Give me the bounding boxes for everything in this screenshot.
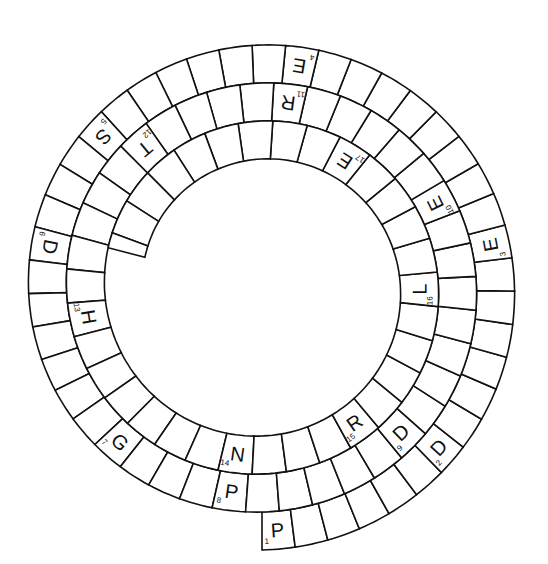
cell-letter: P [270,519,285,542]
clue-number: 16 [425,296,434,306]
spiral-cell[interactable] [438,276,477,310]
spiral-cell[interactable] [66,269,105,303]
cell-letter: L [409,283,431,294]
spiral-cell[interactable] [240,83,274,123]
spiral-cell[interactable] [474,258,514,291]
spiral-cell[interactable] [475,291,514,325]
spiral-cell[interactable] [252,434,286,474]
spiral-cell[interactable] [246,473,280,512]
spiral-cells: P1D2E3E4S5D6G7P8D9E10R11T12H13N14R15L16E… [28,45,514,550]
spiral-cell[interactable] [28,260,67,294]
spiral-puzzle-grid: P1D2E3E4S5D6G7P8D9E10R11T12H13N14R15L16E… [0,0,548,564]
spiral-cell[interactable] [252,45,286,84]
cell-letter: R [279,91,296,115]
